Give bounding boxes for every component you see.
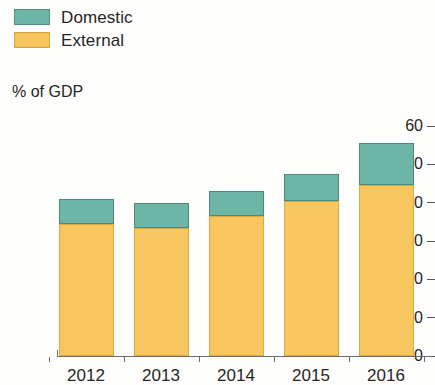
bar-chart-plot: 010203040506020122013201420152016	[0, 0, 435, 385]
y-axis-tick-mark	[427, 241, 435, 242]
bar-segment-external[interactable]	[134, 228, 189, 356]
x-axis-tick-mark	[274, 357, 275, 362]
y-axis-tick-mark	[427, 126, 435, 127]
x-axis-label: 2016	[367, 367, 405, 384]
bar-segment-external[interactable]	[359, 185, 414, 356]
y-axis-tick: 60	[378, 119, 435, 133]
bar-segment-domestic[interactable]	[284, 174, 339, 201]
bar-stack[interactable]	[209, 191, 264, 356]
bar-segment-external[interactable]	[59, 224, 114, 356]
x-axis-label: 2015	[292, 367, 330, 384]
x-axis-label: 2014	[217, 367, 255, 384]
x-axis-tick-mark	[349, 357, 350, 362]
x-axis-tick-mark	[124, 357, 125, 362]
bar-segment-domestic[interactable]	[209, 191, 264, 216]
x-axis-label: 2012	[67, 367, 105, 384]
y-axis-tick-mark	[427, 202, 435, 203]
y-axis-tick-label: 60	[405, 118, 423, 134]
bar-stack[interactable]	[134, 203, 189, 356]
bar-segment-domestic[interactable]	[359, 143, 414, 185]
y-axis-tick-mark	[427, 279, 435, 280]
bar-segment-domestic[interactable]	[134, 203, 189, 228]
bar-stack[interactable]	[359, 143, 414, 356]
bar-segment-external[interactable]	[209, 216, 264, 356]
x-axis-tick-mark	[424, 357, 425, 362]
y-axis-tick-mark	[427, 317, 435, 318]
x-axis-tick-mark	[199, 357, 200, 362]
x-axis-line	[57, 356, 432, 357]
y-axis-tick-mark	[427, 164, 435, 165]
x-axis-label: 2013	[142, 367, 180, 384]
bar-segment-external[interactable]	[284, 201, 339, 356]
x-axis-tick-mark	[49, 357, 50, 362]
bar-segment-domestic[interactable]	[59, 199, 114, 224]
bar-stack[interactable]	[284, 174, 339, 356]
bar-stack[interactable]	[59, 199, 114, 356]
